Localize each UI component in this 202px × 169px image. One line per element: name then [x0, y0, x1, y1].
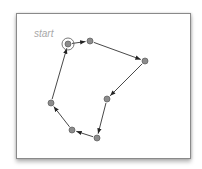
node-n2: [87, 38, 93, 44]
start-node: [65, 41, 71, 47]
edges: [52, 42, 142, 137]
edge-n5-n6: [76, 131, 93, 136]
start-label: start: [34, 28, 55, 39]
nodes: [48, 38, 148, 141]
edge-n6-n7: [54, 107, 70, 127]
node-n3: [142, 58, 148, 64]
node-n5: [94, 135, 100, 141]
node-n7: [48, 100, 54, 106]
edge-n7-n1: [52, 48, 67, 99]
edge-n4-n5: [98, 103, 106, 134]
node-n6: [69, 127, 75, 133]
node-n4: [104, 96, 110, 102]
edge-n2-n3: [94, 42, 141, 59]
cycle-diagram: start: [0, 0, 202, 169]
edge-n3-n4: [110, 64, 142, 96]
